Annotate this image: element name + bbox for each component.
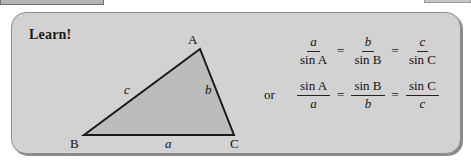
vertex-label-a: A: [188, 33, 197, 46]
fraction-a-over-sin-a: a sin A: [296, 35, 331, 67]
or-connector: or: [260, 87, 296, 103]
denominator: sin A: [297, 52, 330, 68]
numerator: sin A: [297, 79, 330, 96]
formula-row-2: or sin A a = sin B b = sin C c: [260, 73, 465, 117]
equals-sign-1: =: [331, 43, 350, 59]
fraction-sin-c-over-c: sin C c: [405, 79, 440, 111]
denominator: b: [362, 96, 375, 112]
numerator: sin C: [406, 79, 439, 96]
denominator: sin C: [406, 52, 439, 68]
numerator: a: [307, 35, 320, 52]
denominator: a: [307, 96, 320, 112]
triangle-figure: A B C c b a: [57, 27, 257, 152]
equals-sign-2: =: [386, 43, 405, 59]
learn-panel: Learn! A B C c b a a sin A = b sin B =: [11, 12, 461, 154]
numerator: sin B: [351, 79, 384, 96]
fraction-c-over-sin-c: c sin C: [405, 35, 440, 67]
denominator: sin B: [351, 52, 384, 68]
fraction-sin-b-over-b: sin B b: [350, 79, 385, 111]
law-of-sines-formulas: a sin A = b sin B = c sin C or sin A a =: [260, 29, 465, 117]
top-cut-bar-left: [0, 0, 104, 5]
side-label-a: a: [165, 137, 172, 150]
numerator: c: [417, 35, 429, 52]
vertex-label-b: B: [70, 137, 79, 150]
fraction-sin-a-over-a: sin A a: [296, 79, 331, 111]
denominator: c: [417, 96, 429, 112]
fraction-b-over-sin-b: b sin B: [350, 35, 385, 67]
equals-sign-3: =: [331, 87, 350, 103]
equals-sign-4: =: [386, 87, 405, 103]
triangle-svg: [57, 27, 257, 152]
formula-row-1: a sin A = b sin B = c sin C: [260, 29, 465, 73]
side-label-c: c: [124, 83, 130, 96]
side-label-b: b: [205, 83, 212, 96]
vertex-label-c: C: [230, 137, 239, 150]
numerator: b: [362, 35, 375, 52]
top-cut-bar-right: [424, 0, 471, 3]
